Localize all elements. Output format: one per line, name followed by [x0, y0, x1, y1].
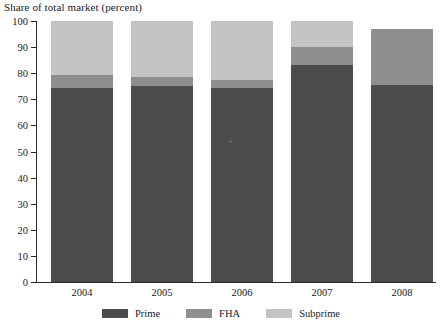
bar-segment-fha[interactable] [371, 29, 433, 85]
y-axis-tick-label: 10 [18, 250, 29, 261]
y-axis-tick-label: 40 [18, 172, 29, 183]
bar-stack[interactable] [291, 21, 353, 282]
chart-legend: PrimeFHASubprime [0, 308, 442, 319]
y-axis-tick [31, 125, 36, 126]
y-axis-tick [31, 282, 36, 283]
chart-axis-title: Share of total market (percent) [4, 1, 142, 13]
scan-artifact-speck [229, 140, 232, 143]
bar-stack[interactable] [51, 21, 113, 282]
y-axis-tick [31, 47, 36, 48]
bar-segment-fha[interactable] [131, 77, 193, 86]
bar-segment-prime[interactable] [291, 65, 353, 282]
legend-label: Subprime [299, 308, 340, 319]
y-axis-tick [31, 204, 36, 205]
y-axis-tick-label: 50 [18, 146, 29, 157]
x-axis-label: 2006 [211, 287, 273, 298]
y-axis-tick-label: 30 [18, 198, 29, 209]
y-axis-tick-label: 20 [18, 224, 29, 235]
y-axis-tick-label: 90 [18, 42, 29, 53]
legend-label: FHA [219, 308, 240, 319]
y-axis-tick [31, 152, 36, 153]
x-axis-label: 2007 [291, 287, 353, 298]
legend-swatch-icon [266, 309, 292, 318]
y-axis-tick-label: 80 [18, 68, 29, 79]
x-axis-label: 2005 [131, 287, 193, 298]
bar-stack[interactable] [371, 21, 433, 282]
y-axis-tick [31, 178, 36, 179]
y-axis-tick-label: 100 [12, 16, 28, 27]
bar-segment-fha[interactable] [51, 75, 113, 88]
y-axis-tick-label: 70 [18, 94, 29, 105]
y-axis-line [36, 21, 37, 282]
x-axis-line [36, 282, 436, 283]
bar-segment-subprime[interactable] [291, 21, 353, 47]
y-axis-tick [31, 99, 36, 100]
bar-segment-subprime[interactable] [211, 21, 273, 80]
bar-segment-fha[interactable] [211, 80, 273, 88]
stacked-bar-chart: Share of total market (percent) 10090807… [0, 0, 442, 331]
y-axis-tick [31, 256, 36, 257]
bar-segment-prime[interactable] [371, 85, 433, 282]
legend-swatch-icon [186, 309, 212, 318]
bar-stack[interactable] [131, 21, 193, 282]
y-axis-tick-label: 60 [18, 120, 29, 131]
y-axis-tick [31, 73, 36, 74]
y-axis-tick [31, 21, 36, 22]
plot-area: 1009080706050403020100 20042005200620072… [36, 21, 436, 282]
legend-item[interactable]: Prime [102, 308, 160, 319]
legend-swatch-icon [102, 309, 128, 318]
bar-segment-prime[interactable] [51, 88, 113, 282]
x-axis-label: 2004 [51, 287, 113, 298]
legend-item[interactable]: Subprime [266, 308, 340, 319]
legend-label: Prime [135, 308, 160, 319]
bar-segment-fha[interactable] [291, 47, 353, 65]
bar-segment-prime[interactable] [211, 88, 273, 282]
x-axis-label: 2008 [371, 287, 433, 298]
legend-item[interactable]: FHA [186, 308, 240, 319]
y-axis-tick-label: 0 [23, 277, 28, 288]
bar-segment-subprime[interactable] [131, 21, 193, 77]
bar-stack[interactable] [211, 21, 273, 282]
bar-segment-subprime[interactable] [51, 21, 113, 75]
y-axis-tick [31, 230, 36, 231]
bar-segment-prime[interactable] [131, 86, 193, 282]
